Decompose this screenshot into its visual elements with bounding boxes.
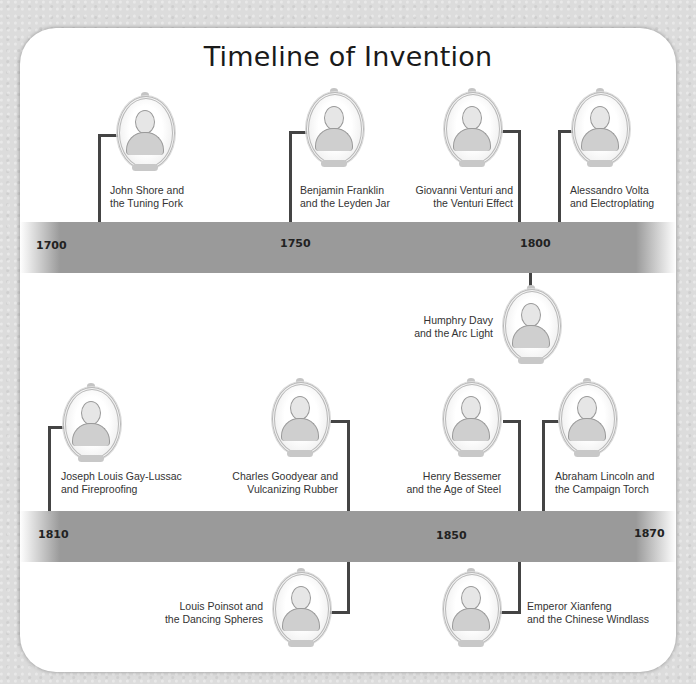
event-label-alessandro-volta: Alessandro Voltaand Electroplating — [570, 184, 654, 210]
portrait-henry-bessemer — [440, 378, 502, 458]
year-tick: 1800 — [520, 237, 551, 250]
year-tick: 1810 — [38, 528, 69, 541]
year-tick: 1750 — [280, 237, 311, 250]
portrait-charles-goodyear — [269, 378, 331, 458]
portrait-emperor-xianfeng — [440, 568, 502, 648]
timeline-band-2: 1810 1850 1870 — [20, 511, 676, 562]
event-label-benjamin-franklin: Benjamin Franklinand the Leyden Jar — [300, 184, 390, 210]
timeline-band-1: 1700 1750 1800 — [20, 222, 676, 273]
connector-xianfeng — [500, 562, 521, 614]
timeline-panel: Timeline of Invention 1700 1750 1800 Joh… — [20, 28, 676, 672]
event-label-emperor-xianfeng: Emperor Xianfengand the Chinese Windlass — [527, 600, 649, 626]
event-label-louis-poinsot: Louis Poinsot andthe Dancing Spheres — [150, 600, 263, 626]
year-tick: 1870 — [634, 527, 665, 540]
event-label-gay-lussac: Joseph Louis Gay-Lussacand Fireproofing — [61, 470, 182, 496]
event-label-henry-bessemer: Henry Bessemerand the Age of Steel — [388, 470, 501, 496]
event-label-giovanni-venturi: Giovanni Venturi andthe Venturi Effect — [410, 184, 513, 210]
event-label-john-shore: John Shore andthe Tuning Fork — [110, 184, 184, 210]
portrait-giovanni-venturi — [441, 88, 503, 168]
connector-goodyear — [330, 420, 350, 514]
page-title: Timeline of Invention — [20, 41, 676, 72]
portrait-abraham-lincoln — [556, 378, 618, 458]
portrait-john-shore — [114, 92, 176, 172]
portrait-benjamin-franklin — [303, 88, 365, 168]
connector-poinsot — [330, 562, 350, 614]
portrait-alessandro-volta — [569, 88, 631, 168]
portrait-louis-poinsot — [270, 568, 332, 648]
year-tick: 1700 — [36, 239, 67, 252]
portrait-humphry-davy — [500, 285, 562, 365]
connector-bessemer — [503, 420, 521, 514]
portrait-gay-lussac — [60, 383, 122, 463]
year-tick: 1850 — [436, 529, 467, 542]
event-label-humphry-davy: Humphry Davyand the Arc Light — [390, 314, 493, 340]
event-label-abraham-lincoln: Abraham Lincoln andthe Campaign Torch — [555, 470, 654, 496]
event-label-charles-goodyear: Charles Goodyear andVulcanizing Rubber — [216, 470, 338, 496]
